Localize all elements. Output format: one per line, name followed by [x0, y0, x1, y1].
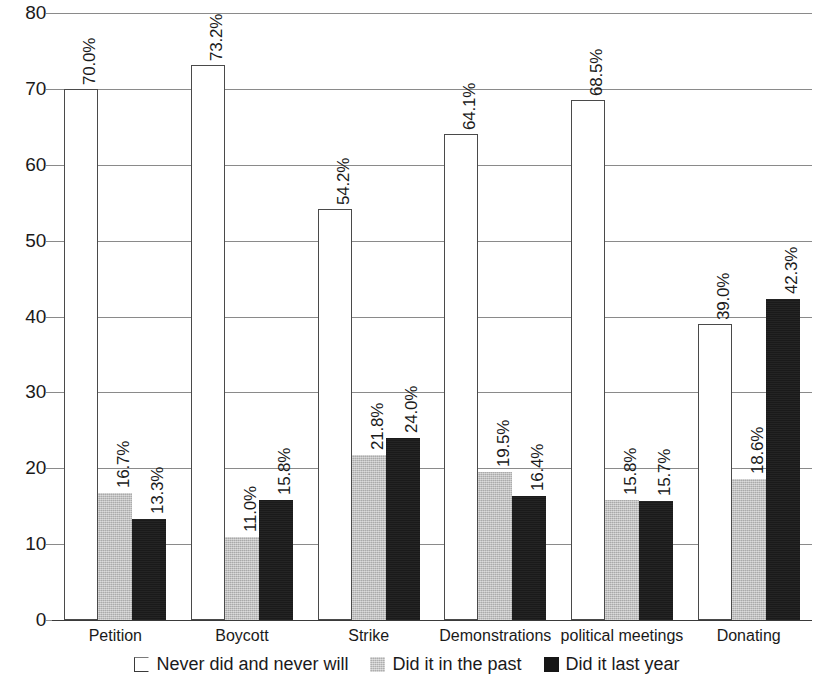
- bar-group: 54.2%21.8%24.0%: [305, 13, 432, 620]
- y-axis-tick-label: 50: [8, 231, 46, 250]
- bar: 39.0%: [698, 324, 732, 620]
- legend-label: Never did and never will: [156, 654, 348, 674]
- chart-legend: Never did and never willDid it in the pa…: [0, 654, 814, 674]
- bar-chart: 01020304050607080 70.0%16.7%13.3%73.2%11…: [0, 0, 814, 682]
- legend-item: Did it last year: [544, 654, 680, 674]
- bar-value-label: 15.8%: [276, 448, 293, 495]
- bar-value-label: 68.5%: [588, 49, 605, 96]
- legend-label: Did it in the past: [392, 654, 521, 674]
- bar-group: 39.0%18.6%42.3%: [685, 13, 812, 620]
- bar-group: 64.1%19.5%16.4%: [432, 13, 559, 620]
- x-axis-category-label: political meetings: [559, 626, 686, 646]
- bar-group-inner: 73.2%11.0%15.8%: [179, 13, 306, 620]
- y-axis-tick-label: 30: [8, 382, 46, 401]
- plot-area: 70.0%16.7%13.3%73.2%11.0%15.8%54.2%21.8%…: [52, 13, 812, 620]
- bar-value-label: 73.2%: [208, 13, 225, 60]
- bar-group: 70.0%16.7%13.3%: [52, 13, 179, 620]
- bar-value-label: 70.0%: [81, 38, 98, 85]
- legend-swatch: [370, 657, 385, 672]
- bar-value-label: 54.2%: [335, 158, 352, 205]
- y-axis-tick-label: 80: [8, 3, 46, 22]
- bar: 16.7%: [98, 493, 132, 620]
- x-axis-category-label: Strike: [305, 626, 432, 646]
- bar-group-inner: 39.0%18.6%42.3%: [685, 13, 812, 620]
- bar-group-inner: 64.1%19.5%16.4%: [432, 13, 559, 620]
- y-axis-tick-label: 0: [8, 610, 46, 629]
- legend-item: Never did and never will: [134, 654, 348, 674]
- x-axis-labels: PetitionBoycottStrikeDemonstrationspolit…: [52, 626, 812, 650]
- bar: 64.1%: [444, 134, 478, 620]
- x-axis-category-label: Donating: [685, 626, 812, 646]
- y-axis-tick-label: 20: [8, 458, 46, 477]
- legend-item: Did it in the past: [370, 654, 521, 674]
- bar: 68.5%: [571, 100, 605, 620]
- bar: 11.0%: [225, 537, 259, 620]
- bar-value-label: 15.8%: [622, 448, 639, 495]
- bar-value-label: 11.0%: [242, 486, 259, 532]
- x-axis-category-label: Boycott: [179, 626, 306, 646]
- x-axis-category-label: Petition: [52, 626, 179, 646]
- legend-swatch: [134, 657, 149, 672]
- bar-value-label: 13.3%: [149, 467, 166, 514]
- bar-value-label: 18.6%: [749, 427, 766, 474]
- bar-value-label: 39.0%: [715, 273, 732, 320]
- bar: 18.6%: [732, 479, 766, 620]
- legend-swatch: [544, 657, 559, 672]
- y-axis-tick-label: 70: [8, 79, 46, 98]
- bar: 24.0%: [386, 438, 420, 620]
- bar: 16.4%: [512, 496, 546, 620]
- bar: 70.0%: [64, 89, 98, 620]
- bar-group: 73.2%11.0%15.8%: [179, 13, 306, 620]
- y-axis-tick-label: 60: [8, 155, 46, 174]
- bar-group-inner: 54.2%21.8%24.0%: [305, 13, 432, 620]
- bar: 42.3%: [766, 299, 800, 620]
- x-axis-category-label: Demonstrations: [432, 626, 559, 646]
- bar: 13.3%: [132, 519, 166, 620]
- bar-value-label: 19.5%: [495, 420, 512, 467]
- bar-value-label: 42.3%: [783, 247, 800, 294]
- bar: 15.7%: [639, 501, 673, 620]
- bar: 73.2%: [191, 65, 225, 620]
- bar: 54.2%: [318, 209, 352, 620]
- bar: 15.8%: [259, 500, 293, 620]
- bar-group-inner: 70.0%16.7%13.3%: [52, 13, 179, 620]
- bar: 21.8%: [352, 455, 386, 620]
- bar-value-label: 16.4%: [529, 443, 546, 490]
- bar-value-label: 21.8%: [369, 402, 386, 449]
- bar: 19.5%: [478, 472, 512, 620]
- bar-value-label: 24.0%: [403, 386, 420, 433]
- legend-label: Did it last year: [566, 654, 680, 674]
- y-axis-tick-label: 10: [8, 534, 46, 553]
- bar-group: 68.5%15.8%15.7%: [559, 13, 686, 620]
- bar-value-label: 64.1%: [461, 82, 478, 129]
- y-axis: 01020304050607080: [0, 13, 46, 620]
- y-axis-tick-label: 40: [8, 307, 46, 326]
- bar: 15.8%: [605, 500, 639, 620]
- bar-group-inner: 68.5%15.8%15.7%: [559, 13, 686, 620]
- gridline: [52, 620, 812, 621]
- bar-value-label: 15.7%: [656, 449, 673, 496]
- bar-value-label: 16.7%: [115, 441, 132, 488]
